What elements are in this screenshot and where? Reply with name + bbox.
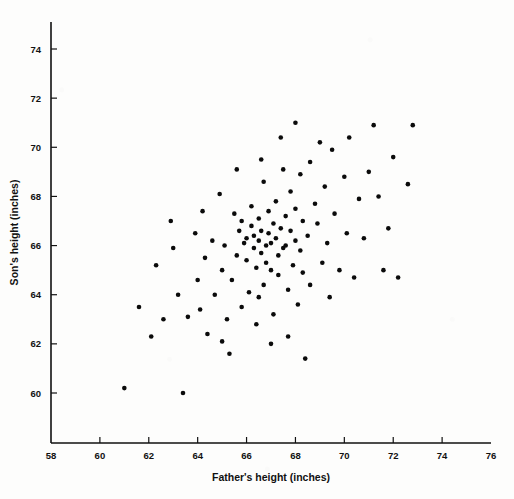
data-point (230, 278, 235, 283)
data-point (244, 258, 249, 263)
data-point (293, 238, 298, 243)
data-point (332, 211, 337, 216)
scatter-plot-svg: 58606264666870727476 6062646668707274 Fa… (0, 0, 514, 499)
data-point (269, 342, 274, 347)
data-point (220, 339, 225, 344)
data-point (327, 295, 332, 300)
data-point (283, 243, 288, 248)
data-point (247, 290, 252, 295)
data-point (256, 295, 261, 300)
data-point (154, 263, 159, 268)
data-point (303, 356, 308, 361)
data-point (283, 214, 288, 219)
data-point (352, 275, 357, 280)
data-point (234, 167, 239, 172)
data-point (271, 221, 276, 226)
data-point (278, 226, 283, 231)
data-point (308, 283, 313, 288)
data-point (259, 229, 264, 234)
data-point (305, 233, 310, 238)
data-point (259, 157, 264, 162)
data-point (308, 160, 313, 165)
data-point (366, 170, 371, 175)
data-point (254, 322, 259, 327)
x-tick-label: 62 (143, 450, 154, 461)
y-tick-label: 70 (30, 142, 41, 153)
data-point (391, 155, 396, 160)
y-tick-label: 68 (30, 191, 41, 202)
data-point (259, 251, 264, 256)
data-point (288, 189, 293, 194)
data-point (261, 283, 266, 288)
data-point (298, 248, 303, 253)
data-point (161, 317, 166, 322)
data-point (195, 278, 200, 283)
data-point (278, 135, 283, 140)
scatter-plot-figure: 58606264666870727476 6062646668707274 Fa… (0, 0, 514, 499)
data-points (122, 120, 415, 395)
data-point (269, 268, 274, 273)
data-point (276, 273, 281, 278)
y-tick-label: 62 (30, 338, 41, 349)
data-point (212, 292, 217, 297)
data-point (181, 391, 186, 396)
y-axis-title: Son's height (inches) (8, 180, 20, 286)
data-point (256, 216, 261, 221)
y-tick-label: 64 (30, 289, 41, 300)
data-point (264, 260, 269, 265)
data-point (198, 307, 203, 312)
data-point (210, 238, 215, 243)
data-point (122, 386, 127, 391)
data-point (217, 192, 222, 197)
data-point (293, 120, 298, 125)
data-point (362, 236, 367, 241)
x-tick-label: 60 (95, 450, 106, 461)
data-point (315, 221, 320, 226)
data-point (376, 194, 381, 199)
data-point (274, 236, 279, 241)
data-point (249, 204, 254, 209)
data-point (222, 243, 227, 248)
data-point (239, 305, 244, 310)
data-point (252, 233, 257, 238)
y-tick-label: 60 (30, 388, 41, 399)
data-point (252, 246, 257, 251)
data-point (237, 229, 242, 234)
data-point (276, 253, 281, 258)
data-point (137, 305, 142, 310)
data-point (357, 197, 362, 202)
data-point (176, 292, 181, 297)
y-axis-ticks: 6062646668707274 (30, 44, 57, 399)
data-point (239, 219, 244, 224)
data-point (291, 263, 296, 268)
data-point (288, 229, 293, 234)
y-tick-label: 74 (30, 44, 41, 55)
data-point (396, 275, 401, 280)
x-axis-ticks: 58606264666870727476 (46, 437, 497, 461)
data-point (225, 317, 230, 322)
data-point (205, 332, 210, 337)
data-point (281, 167, 286, 172)
data-point (406, 182, 411, 187)
data-point (410, 123, 415, 128)
data-point (256, 238, 261, 243)
data-point (286, 334, 291, 339)
data-point (269, 241, 274, 246)
data-point (168, 219, 173, 224)
data-point (386, 226, 391, 231)
y-tick-label: 72 (30, 93, 41, 104)
data-point (264, 243, 269, 248)
data-point (300, 219, 305, 224)
data-point (271, 312, 276, 317)
x-tick-label: 74 (437, 450, 448, 461)
x-tick-label: 76 (486, 450, 497, 461)
data-point (296, 302, 301, 307)
data-point (293, 206, 298, 211)
axis-lines (51, 22, 491, 443)
data-point (254, 265, 259, 270)
data-point (325, 241, 330, 246)
data-point (337, 268, 342, 273)
data-point (381, 268, 386, 273)
data-point (220, 268, 225, 273)
x-tick-label: 66 (241, 450, 252, 461)
